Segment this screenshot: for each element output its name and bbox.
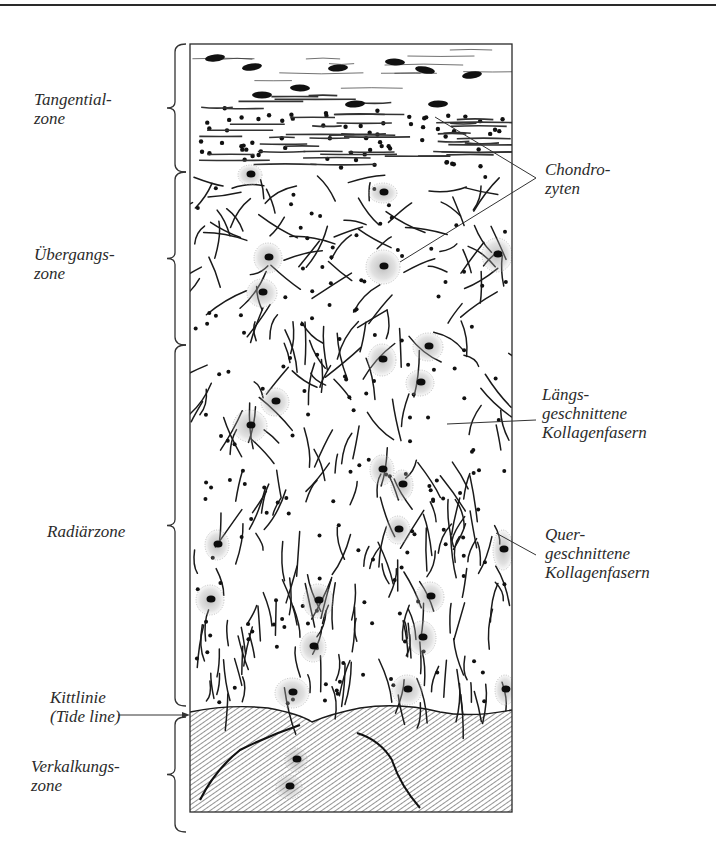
label-line: Längs- <box>542 385 647 404</box>
chondrocyte <box>196 585 224 615</box>
label-line: Chondro- <box>545 160 611 179</box>
label-line: Kollagenfasern <box>542 423 647 442</box>
chondrocyte <box>303 584 333 618</box>
chondrocyte <box>369 183 397 203</box>
label-line: Kittlinie <box>50 688 120 707</box>
chondrocyte <box>391 470 413 500</box>
label-line: Verkalkungs- <box>31 757 120 776</box>
chondrocyte <box>493 530 513 570</box>
chondrocyte <box>416 582 444 612</box>
chondrocyte <box>254 243 282 273</box>
label-line: zone <box>31 776 120 795</box>
chondrocyte <box>368 344 396 376</box>
chondrocyte <box>275 678 309 708</box>
chondrocyte <box>285 748 307 772</box>
label-line: geschnittene <box>545 544 650 563</box>
label-line: (Tide line) <box>50 707 120 726</box>
chondrocyte <box>261 388 289 416</box>
chondrocyte <box>247 279 277 307</box>
brace-uebergang <box>167 172 186 345</box>
label-line: geschnittene <box>542 404 647 423</box>
brace-verkalkung <box>167 717 186 832</box>
chondrocyte <box>300 632 326 662</box>
chondrocyte <box>205 530 229 560</box>
chondrocyte <box>413 333 443 361</box>
chondrocyte <box>370 455 394 485</box>
label-quer: Quer-geschnitteneKollagenfasern <box>545 525 650 582</box>
label-line: Radiärzone <box>47 522 125 541</box>
label-laengs: Längs-geschnitteneKollagenfasern <box>542 385 647 442</box>
chondrocyte <box>238 165 262 185</box>
chondrocyte <box>406 370 434 396</box>
label-radiaer: Radiärzone <box>47 522 125 541</box>
chondrocyte <box>386 516 410 544</box>
label-line: Übergangs- <box>34 245 115 264</box>
label-line: Tangential- <box>34 90 112 109</box>
chondrocyte <box>276 775 302 799</box>
chondrocyte <box>392 675 422 705</box>
label-uebergang: Übergangs-zone <box>34 245 115 283</box>
label-line: Kollagenfasern <box>545 563 650 582</box>
label-chondrozyten: Chondro-zyten <box>545 160 611 198</box>
brace-radiaer <box>167 345 186 706</box>
chondrocyte <box>482 238 512 272</box>
chondrocyte <box>366 250 400 284</box>
chondrocyte <box>408 621 436 655</box>
label-kittlinie: Kittlinie(Tide line) <box>50 688 120 726</box>
label-tangential: Tangential-zone <box>34 90 112 128</box>
label-line: Quer- <box>545 525 650 544</box>
label-line: zone <box>34 109 112 128</box>
label-verkalkung: Verkalkungs-zone <box>31 757 120 795</box>
frame-contents <box>154 49 532 812</box>
label-line: zyten <box>545 179 611 198</box>
brace-tangential <box>167 44 186 172</box>
chondrocyte <box>233 410 267 442</box>
label-line: zone <box>34 264 115 283</box>
leader-laengs <box>447 420 536 424</box>
